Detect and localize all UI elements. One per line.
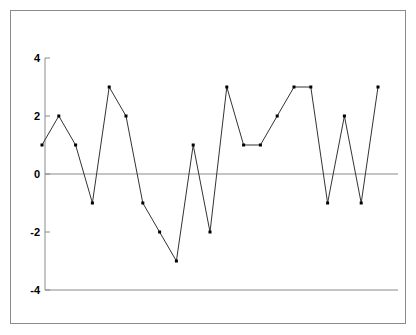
y-axis-tick-label: -4 (12, 284, 40, 296)
data-point-marker (141, 202, 144, 205)
data-point-marker (326, 202, 329, 205)
data-point-marker (175, 260, 178, 263)
data-point-marker (57, 115, 60, 118)
data-point-marker (343, 115, 346, 118)
data-point-marker (259, 144, 262, 147)
y-axis-tick-label: 0 (12, 168, 40, 180)
data-point-marker (293, 86, 296, 89)
data-point-marker (309, 86, 312, 89)
y-axis-ticks (45, 58, 50, 290)
data-point-marker (209, 231, 212, 234)
data-point-marker (74, 144, 77, 147)
data-point-marker (377, 86, 380, 89)
data-point-marker (41, 144, 44, 147)
data-point-marker (125, 115, 128, 118)
data-point-marker (242, 144, 245, 147)
line-chart-svg (0, 0, 416, 335)
data-point-marker (276, 115, 279, 118)
plot-area: 420-2-4 (0, 0, 416, 335)
data-point-marker (108, 86, 111, 89)
data-point-marker (91, 202, 94, 205)
y-axis-tick-label: 2 (12, 110, 40, 122)
data-point-marker (158, 231, 161, 234)
y-axis-tick-label: 4 (12, 52, 40, 64)
y-axis-tick-label: -2 (12, 226, 40, 238)
reference-lines-group (45, 174, 398, 290)
data-point-marker (360, 202, 363, 205)
y-axis (45, 58, 50, 290)
data-point-marker (225, 86, 228, 89)
data-point-marker (192, 144, 195, 147)
chart-figure: 420-2-4 (0, 0, 416, 335)
